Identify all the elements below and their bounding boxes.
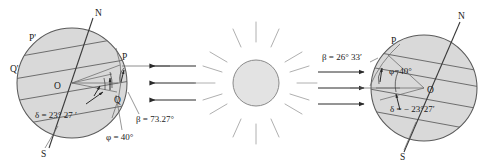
left-label-north-pole: N xyxy=(95,8,102,18)
left-label-point-p-prime: P' xyxy=(29,33,36,43)
left-label-point-q: Q xyxy=(114,95,121,105)
right-beta-leader xyxy=(370,58,378,62)
right-label-point-p: P xyxy=(391,36,396,46)
left-earth-group: N S O P Q P' Q' δ = 23° 27 ′ φ = 40° β =… xyxy=(8,8,174,159)
sun xyxy=(195,22,317,144)
right-label-south-pole: S xyxy=(400,152,405,162)
left-beta-leader xyxy=(128,92,139,114)
diagram-canvas: N S O P Q P' Q' δ = 23° 27 ′ φ = 40° β =… xyxy=(0,0,497,166)
right-label-north-pole: N xyxy=(458,11,465,21)
right-label-latitude: φ=40° xyxy=(389,66,412,76)
solar-geometry-diagram: N S O P Q P' Q' δ = 23° 27 ′ φ = 40° β =… xyxy=(0,0,497,166)
left-label-declination: δ = 23° 27 ′ xyxy=(35,110,77,120)
left-label-latitude: φ = 40° xyxy=(106,132,134,142)
right-label-center-o: O xyxy=(427,85,434,95)
left-label-altitude-beta: β = 73.27° xyxy=(136,114,174,124)
right-earth-group: N S O P δ = − 23°27′ φ=40° β = 26° 33′ xyxy=(322,11,486,162)
left-label-south-pole: S xyxy=(41,149,46,159)
left-label-point-q-prime: Q' xyxy=(10,64,19,74)
left-label-center-o: O xyxy=(54,81,61,91)
left-label-point-p: P xyxy=(122,52,127,62)
right-label-altitude-beta: β = 26° 33′ xyxy=(322,52,362,62)
sunrays-toward-left-earth xyxy=(150,66,196,100)
right-label-declination: δ = − 23°27′ xyxy=(390,104,435,114)
sun-disc xyxy=(233,60,279,106)
